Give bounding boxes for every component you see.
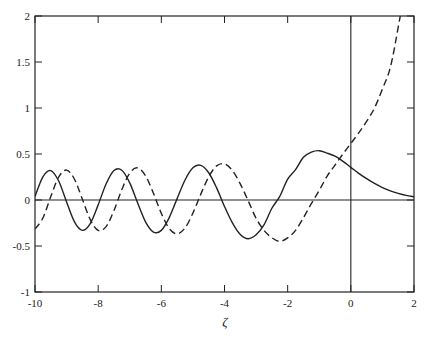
x-tick-label: -10 xyxy=(28,297,43,309)
x-axis-ticks: -10-8-6-4-202 xyxy=(28,16,417,309)
solid-curve xyxy=(35,151,414,239)
x-tick-label: -2 xyxy=(283,297,292,309)
y-tick-label: 1.5 xyxy=(16,56,30,68)
x-axis-title: ζ xyxy=(222,314,228,329)
y-axis-ticks: -1-0.500.511.52 xyxy=(13,10,414,298)
y-tick-label: -0.5 xyxy=(13,240,31,252)
y-tick-label: 1 xyxy=(25,102,31,114)
x-tick-label: -6 xyxy=(157,297,167,309)
plot-frame xyxy=(35,16,414,292)
x-tick-label: -8 xyxy=(94,297,104,309)
chart-canvas: -10-8-6-4-202 -1-0.500.511.52 ζ xyxy=(0,0,429,342)
y-tick-label: -1 xyxy=(21,286,30,298)
y-tick-label: 0 xyxy=(25,194,31,206)
y-tick-label: 0.5 xyxy=(16,148,30,160)
series-layer xyxy=(35,0,414,241)
x-tick-label: 0 xyxy=(348,297,354,309)
y-tick-label: 2 xyxy=(25,10,31,22)
reference-lines xyxy=(35,16,414,292)
x-tick-label: 2 xyxy=(411,297,417,309)
x-tick-label: -4 xyxy=(220,297,230,309)
